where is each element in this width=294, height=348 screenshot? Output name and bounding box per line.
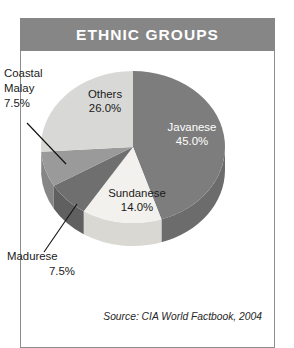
- callout-label-coastal-malay-line1: Coastal: [4, 67, 43, 79]
- slice-label-sundanese-name: Sundanese: [108, 187, 166, 199]
- callout-label-madurese-value: 7.5%: [49, 265, 75, 277]
- slice-label-javanese-value: 45.0%: [176, 135, 208, 147]
- callout-label-coastal-malay-line2: Malay: [4, 82, 35, 94]
- pie-chart: Javanese 45.0% Sundanese 14.0% Others 26…: [0, 0, 274, 320]
- slice-label-others-value: 26.0%: [89, 102, 121, 114]
- slice-label-others-name: Others: [88, 88, 122, 100]
- slice-label-javanese-name: Javanese: [168, 121, 217, 133]
- callout-label-coastal-malay-value: 7.5%: [4, 97, 30, 109]
- pie-chart-svg: Javanese 45.0% Sundanese 14.0% Others 26…: [0, 0, 274, 320]
- callout-label-madurese-name: Madurese: [7, 250, 58, 262]
- slice-label-sundanese-value: 14.0%: [121, 201, 153, 213]
